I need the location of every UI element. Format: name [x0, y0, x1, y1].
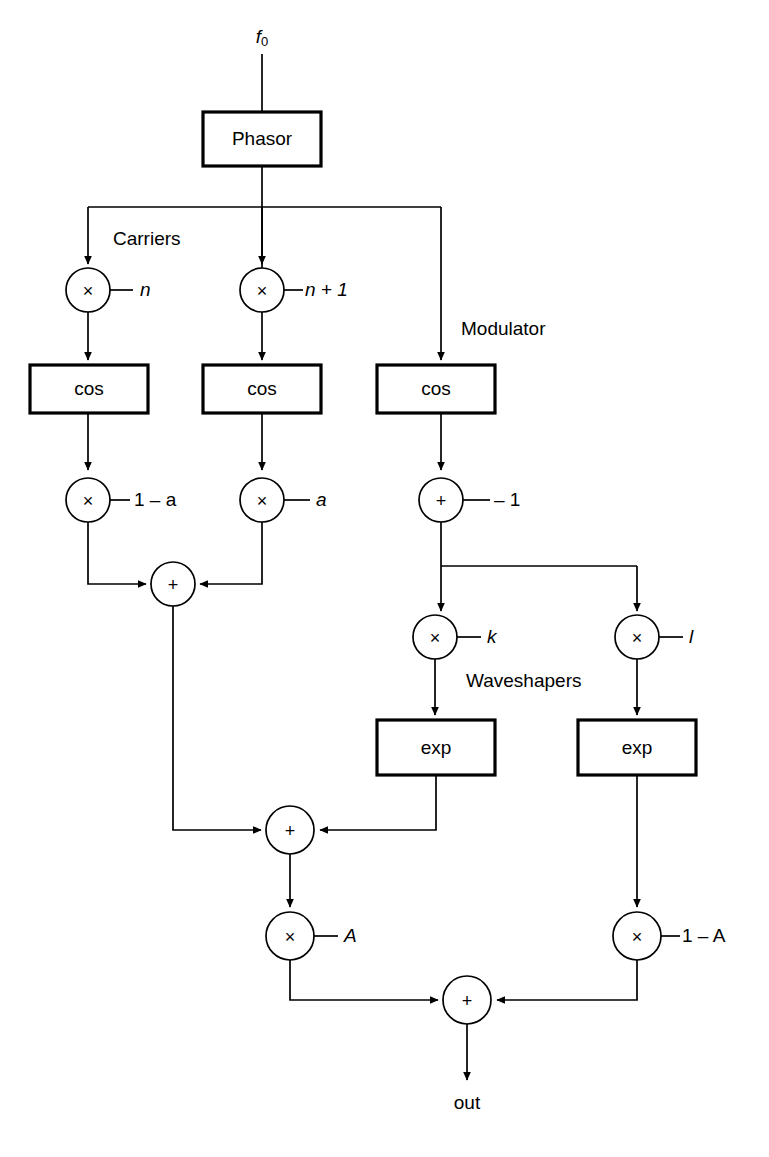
param-label-minus-1: – 1 [494, 489, 520, 510]
wire-exp1-to-sum-mid [320, 775, 436, 830]
param-label-n-plus-1: n + 1 [305, 279, 348, 300]
section-label-carriers: Carriers [113, 228, 181, 249]
param-label-k: k [487, 626, 498, 647]
section-label-waveshapers: Waveshapers [466, 670, 581, 691]
output-label-out: out [454, 1092, 481, 1113]
param-label-1-minus-a: 1 – a [134, 489, 177, 510]
wire-mul-1-minus-a-to-sum [88, 522, 146, 584]
block-cos-1-label: cos [74, 378, 104, 399]
operator-mul-n-plus-1-symbol: × [257, 281, 268, 301]
wire-mul-A-to-sum-out [290, 960, 438, 1000]
section-label-modulator: Modulator [461, 318, 546, 339]
wire-mul-a-to-sum [200, 522, 262, 584]
operator-mul-1-minus-a-symbol: × [83, 491, 94, 511]
operator-mul-l-symbol: × [632, 628, 643, 648]
operator-sum-carriers-symbol: + [168, 575, 179, 595]
block-cos-3-label: cos [421, 378, 451, 399]
block-cos-2-label: cos [247, 378, 277, 399]
param-label-a: a [316, 489, 327, 510]
block-phasor-label: Phasor [232, 128, 293, 149]
input-label-f0: f0 [256, 26, 269, 49]
signal-flow-diagram: f0 Phasor Carriers × n × n + 1 Modulator… [0, 0, 769, 1157]
operator-sum-out-symbol: + [462, 991, 473, 1011]
operator-mul-k-symbol: × [430, 628, 441, 648]
wire-sum-carriers-to-sum-mid [173, 606, 261, 830]
wire-mul-1-minus-A-to-sum-out [497, 960, 637, 1000]
param-label-n: n [140, 279, 151, 300]
block-exp-2-label: exp [622, 737, 653, 758]
operator-sum-mid-symbol: + [285, 821, 296, 841]
operator-mul-1-minus-A-symbol: × [632, 927, 643, 947]
input-label-f0-subscript: 0 [261, 34, 268, 49]
param-label-A: A [343, 925, 357, 946]
operator-mul-a-symbol: × [257, 491, 268, 511]
operator-add-minus-1-symbol: + [436, 491, 447, 511]
operator-mul-A-symbol: × [285, 927, 296, 947]
param-label-1-minus-A: 1 – A [682, 925, 726, 946]
operator-mul-n-symbol: × [83, 281, 94, 301]
block-exp-1-label: exp [421, 737, 452, 758]
param-label-l: l [689, 626, 694, 647]
